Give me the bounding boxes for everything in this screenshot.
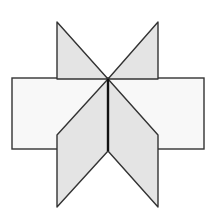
- geometric-figure: [0, 0, 218, 216]
- top-left-triangle-panel: [57, 22, 108, 79]
- top-right-triangle-panel: [108, 22, 158, 79]
